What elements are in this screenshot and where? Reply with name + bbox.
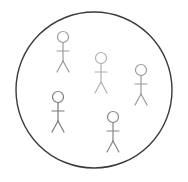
right-leg-line	[63, 61, 69, 72]
stick-figure	[95, 53, 107, 94]
stick-figure	[52, 92, 64, 133]
stick-figure	[135, 65, 147, 106]
left-leg-line	[135, 94, 141, 105]
right-leg-line	[58, 121, 64, 132]
left-leg-line	[107, 141, 113, 152]
head-icon	[136, 65, 147, 76]
group-boundary-circle	[16, 12, 172, 168]
diagram-canvas	[0, 0, 188, 182]
head-icon	[108, 112, 119, 123]
right-leg-line	[101, 82, 107, 93]
left-leg-line	[57, 61, 63, 72]
stick-figure	[107, 112, 119, 153]
head-icon	[58, 32, 69, 43]
head-icon	[53, 92, 64, 103]
stick-figure-group	[52, 32, 147, 153]
right-leg-line	[141, 94, 147, 105]
stick-figure	[57, 32, 69, 73]
left-leg-line	[52, 121, 58, 132]
head-icon	[96, 53, 107, 64]
right-leg-line	[113, 141, 119, 152]
left-leg-line	[95, 82, 101, 93]
